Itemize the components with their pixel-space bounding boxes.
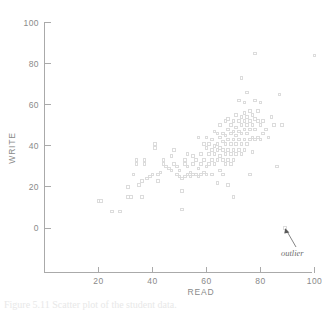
data-point-marker <box>230 153 233 156</box>
data-point-marker <box>278 93 281 96</box>
data-point-marker <box>189 175 192 178</box>
data-point-marker <box>165 165 168 168</box>
data-point-marker <box>227 118 230 121</box>
y-tick-label: 60 <box>29 100 39 110</box>
figure-caption: Figure 5.11 Scatter plot of the student … <box>4 300 177 310</box>
data-point-marker <box>208 163 211 166</box>
data-point-marker <box>254 128 257 131</box>
data-point-marker <box>197 167 200 170</box>
annotation-leader-line <box>287 231 297 248</box>
data-point-marker <box>140 196 143 199</box>
data-point-marker <box>232 138 235 141</box>
data-point-marker <box>200 153 203 156</box>
data-point-marker <box>251 124 254 127</box>
data-point-marker <box>143 163 146 166</box>
data-point-marker <box>194 173 197 176</box>
data-point-marker <box>232 149 235 152</box>
x-tick-label: 20 <box>93 276 103 286</box>
data-point-marker <box>230 124 233 127</box>
data-point-marker <box>221 140 224 143</box>
data-point-marker <box>227 184 230 187</box>
data-point-marker <box>219 147 222 150</box>
data-point-marker <box>248 173 251 176</box>
data-point-marker <box>192 163 195 166</box>
data-point-marker <box>235 126 238 129</box>
data-point-marker <box>197 136 200 139</box>
data-point-marker <box>189 171 192 174</box>
data-point-marker <box>208 142 211 145</box>
data-point-marker <box>135 159 138 162</box>
data-point-marker <box>224 163 227 166</box>
data-point-marker <box>246 132 249 135</box>
y-axis-ticks: 020406080100 <box>24 18 51 234</box>
data-point-marker <box>100 200 103 203</box>
data-point-marker <box>224 142 227 145</box>
data-point-marker <box>203 159 206 162</box>
data-point-marker <box>227 159 230 162</box>
data-point-marker <box>173 163 176 166</box>
data-point-marker <box>227 128 230 131</box>
data-point-marker <box>246 116 249 119</box>
data-point-marker <box>154 142 157 145</box>
data-point-marker <box>162 163 165 166</box>
data-point-marker <box>219 124 222 127</box>
data-point-marker <box>135 163 138 166</box>
data-point-marker <box>173 149 176 152</box>
data-point-marker <box>224 134 227 137</box>
data-point-marker <box>216 149 219 152</box>
data-point-marker <box>240 132 243 135</box>
data-point-marker <box>162 159 165 162</box>
data-point-marker <box>240 77 243 80</box>
data-point-marker <box>216 142 219 145</box>
y-tick-label: 20 <box>29 182 39 192</box>
data-point-marker <box>221 173 224 176</box>
data-point-marker <box>176 165 179 168</box>
data-point-marker <box>313 54 316 57</box>
data-point-marker <box>213 145 216 148</box>
data-point-marker <box>230 142 233 145</box>
data-point-marker <box>149 175 152 178</box>
data-point-marker <box>184 175 187 178</box>
scatter-plot-figure: 20406080100 020406080100 READ WRITE outl… <box>0 0 325 313</box>
data-point-marker <box>235 114 238 117</box>
data-point-marker <box>132 173 135 176</box>
data-point-marker <box>200 163 203 166</box>
data-point-marker <box>211 149 214 152</box>
data-point-marker <box>111 210 114 213</box>
data-point-marker <box>246 142 249 145</box>
x-axis-ticks: 20406080100 <box>93 267 322 287</box>
data-point-marker <box>281 124 284 127</box>
data-point-marker <box>143 159 146 162</box>
data-point-marker <box>205 173 208 176</box>
data-point-marker <box>192 173 195 176</box>
data-point-marker <box>157 179 160 182</box>
data-point-marker <box>246 91 249 94</box>
data-point-marker <box>130 196 133 199</box>
y-tick-label: 40 <box>29 141 39 151</box>
data-point-marker <box>238 99 241 102</box>
data-point-marker <box>240 124 243 127</box>
data-point-marker <box>181 190 184 193</box>
data-point-marker <box>146 177 149 180</box>
data-point-marker <box>259 124 262 127</box>
data-point-marker <box>197 175 200 178</box>
data-point-marker <box>211 173 214 176</box>
data-point-marker <box>240 153 243 156</box>
data-point-marker <box>170 169 173 172</box>
data-point-marker <box>97 200 100 203</box>
data-point-marker <box>205 147 208 150</box>
y-tick-label: 0 <box>34 223 39 233</box>
data-point-marker <box>238 130 241 133</box>
data-point-marker <box>184 159 187 162</box>
y-tick-label: 100 <box>24 18 39 28</box>
data-point-marker <box>246 124 249 127</box>
data-point-marker <box>238 120 241 123</box>
data-point-marker <box>176 173 179 176</box>
data-point-marker <box>248 138 251 141</box>
data-point-marker <box>240 142 243 145</box>
annotation-label: outlier <box>281 248 304 258</box>
data-point-marker <box>203 171 206 174</box>
data-point-marker <box>238 149 241 152</box>
data-point-marker <box>151 173 154 176</box>
data-point-marker <box>205 165 208 168</box>
